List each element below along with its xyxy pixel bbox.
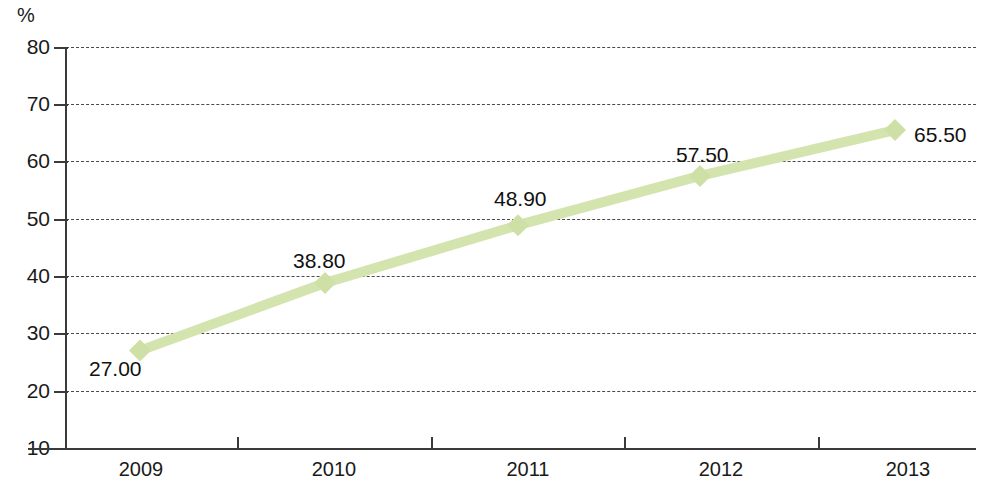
- data-point-label: 38.80: [293, 250, 346, 271]
- x-tick-mark: [237, 437, 239, 449]
- gridline: [66, 104, 976, 105]
- plot-area: 80 70 60 50 40 30 20 10 2009 2010 2011: [0, 0, 989, 482]
- x-tick-label: 2013: [848, 458, 968, 481]
- y-tick-label: 40: [6, 265, 50, 286]
- gridline: [66, 161, 976, 162]
- x-axis-line: [28, 448, 976, 450]
- gridline: [66, 391, 976, 392]
- data-point-marker: [507, 214, 529, 236]
- series-line: [140, 130, 895, 351]
- data-point-label: 48.90: [494, 188, 547, 209]
- data-point-marker: [689, 165, 711, 187]
- x-tick-label: 2012: [661, 458, 781, 481]
- data-point-marker: [884, 119, 906, 141]
- x-tick-label: 2011: [468, 458, 588, 481]
- data-point-label: 65.50: [914, 124, 967, 145]
- x-tick-label: 2010: [274, 458, 394, 481]
- x-tick-mark: [624, 437, 626, 449]
- gridline: [66, 276, 976, 277]
- series-markers: [129, 119, 906, 362]
- y-axis-line: [65, 47, 67, 449]
- x-tick-mark: [818, 437, 820, 449]
- data-point-label: 27.00: [89, 358, 142, 379]
- gridline: [66, 219, 976, 220]
- series-line-group: [0, 0, 989, 482]
- x-tick-mark: [431, 437, 433, 449]
- y-tick-label: 70: [6, 93, 50, 114]
- line-chart: % 80 70 60 50 40 30 20 10: [0, 0, 989, 482]
- gridline: [66, 47, 976, 48]
- y-tick-label: 50: [6, 208, 50, 229]
- y-tick-label: 80: [6, 36, 50, 57]
- y-tick-label: 20: [6, 380, 50, 401]
- y-tick-label: 30: [6, 322, 50, 343]
- gridline: [66, 333, 976, 334]
- data-point-label: 57.50: [676, 144, 729, 165]
- x-tick-label: 2009: [81, 458, 201, 481]
- y-tick-label: 60: [6, 150, 50, 171]
